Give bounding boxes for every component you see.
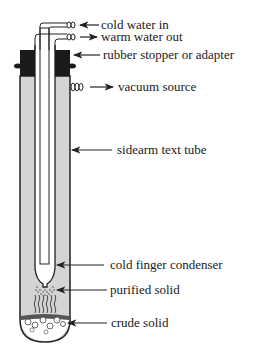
label-crude-solid: crude solid xyxy=(111,315,169,330)
cold-water-nozzle xyxy=(67,22,75,28)
label-warm-water-out: warm water out xyxy=(101,29,183,44)
label-purified-solid: purified solid xyxy=(110,282,180,297)
label-vacuum-source: vacuum source xyxy=(118,79,197,94)
label-cold-finger-condenser: cold finger condenser xyxy=(110,257,223,272)
cold-finger-condenser xyxy=(35,28,55,287)
sublimation-apparatus-diagram: cold water in warm water out rubber stop… xyxy=(0,0,265,355)
warm-water-nozzle xyxy=(67,34,75,40)
label-rubber-stopper: rubber stopper or adapter xyxy=(103,47,235,62)
label-sidearm-test-tube: sidearm text tube xyxy=(117,142,207,157)
vacuum-sidearm-nozzle xyxy=(71,83,83,91)
